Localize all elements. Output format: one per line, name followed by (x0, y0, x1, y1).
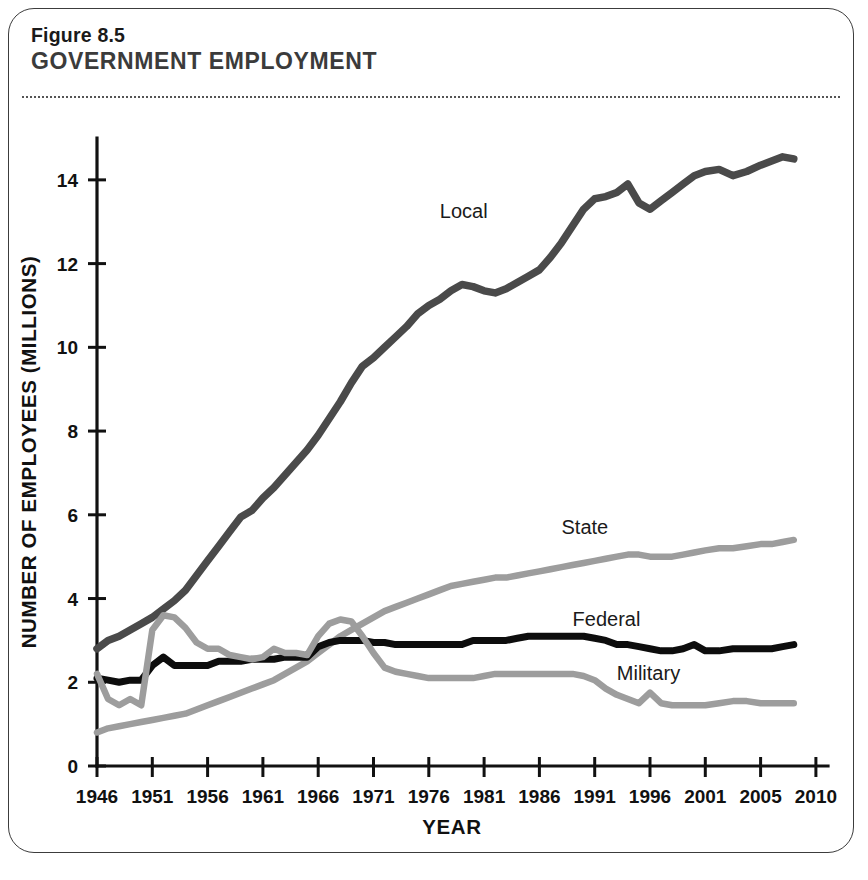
header-divider (22, 96, 840, 98)
figure-frame (8, 8, 854, 853)
figure-title: GOVERNMENT EMPLOYMENT (31, 48, 377, 75)
figure-page: Figure 8.5 GOVERNMENT EMPLOYMENT 0246810… (0, 0, 868, 880)
figure-number: Figure 8.5 (31, 24, 125, 47)
